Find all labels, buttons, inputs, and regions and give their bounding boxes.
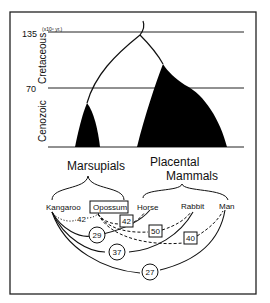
species-horse: Horse xyxy=(137,203,159,212)
distance-kangaroo-horse: 29 xyxy=(93,231,102,240)
distance-opossum-man: 40 xyxy=(186,234,195,243)
label-placental: Placental xyxy=(150,155,199,169)
placental-brace xyxy=(143,184,228,200)
distance-kangaroo-rabbit: 37 xyxy=(113,248,122,257)
era-cretaceous: Cretaceous xyxy=(37,33,48,84)
axis-unit: (x10⁶ yr.) xyxy=(42,26,62,32)
species-rabbit: Rabbit xyxy=(181,202,205,211)
marsupial-branch xyxy=(87,35,140,103)
era-cenozoic: Cenozoic xyxy=(37,100,48,142)
link-kangaroo-opossum-b xyxy=(87,213,99,218)
tick-70: 70 xyxy=(26,84,36,94)
root-branch xyxy=(140,21,144,35)
placental-radiation xyxy=(137,64,227,147)
distance-opossum-rabbit: 50 xyxy=(151,227,160,236)
marsupial-radiation xyxy=(75,103,100,147)
link-opossum-man-b xyxy=(197,211,223,236)
label-marsupials: Marsupials xyxy=(67,159,125,173)
label-mammals: Mammals xyxy=(166,169,218,183)
distance-kangaroo-opossum: 42 xyxy=(77,215,86,224)
marsupials-brace xyxy=(52,176,124,200)
tick-135: 135 xyxy=(22,29,37,39)
mammal-phylogeny-diagram: 135 70 (x10⁶ yr.) Cretaceous Cenozoic Ma… xyxy=(0,0,270,303)
distance-kangaroo-man: 27 xyxy=(146,268,155,277)
distance-opossum-horse: 42 xyxy=(122,217,131,226)
species-opossum: Opossum xyxy=(93,203,128,212)
placental-branch xyxy=(140,35,163,64)
species-man: Man xyxy=(219,202,235,211)
species-kangaroo: Kangaroo xyxy=(46,203,81,212)
